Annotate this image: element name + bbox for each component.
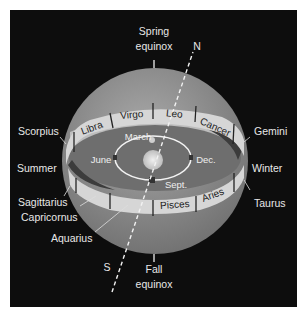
sun xyxy=(143,150,163,170)
earth-june xyxy=(113,155,117,160)
scorpius-label: Scorpius xyxy=(18,125,59,137)
zodiac-diagram: Spring equinox N S Fall equinox Summer W… xyxy=(0,0,308,317)
gemini-label: Gemini xyxy=(254,125,287,137)
fall-equinox-label-line1: Fall xyxy=(146,263,163,275)
south-label: S xyxy=(103,261,110,273)
sagittarius-label: Sagittarius xyxy=(18,196,68,208)
capricornus-label: Capricornus xyxy=(21,211,78,223)
winter-label: Winter xyxy=(252,162,283,174)
june-label: June xyxy=(91,154,112,165)
spring-equinox-label-line2: equinox xyxy=(136,40,174,52)
dec-label: Dec. xyxy=(196,154,216,165)
march-label: March xyxy=(125,131,151,142)
pisces-label: Pisces xyxy=(160,198,190,211)
sept-label: Sept. xyxy=(165,179,187,190)
taurus-label: Taurus xyxy=(254,197,286,209)
earth-dec xyxy=(189,155,193,160)
summer-label: Summer xyxy=(17,162,57,174)
aquarius-label: Aquarius xyxy=(51,232,92,244)
leo-label: Leo xyxy=(165,107,183,120)
fall-equinox-label-line2: equinox xyxy=(136,278,174,290)
north-label: N xyxy=(193,40,201,52)
virgo-label: Virgo xyxy=(120,108,144,121)
spring-equinox-label-line1: Spring xyxy=(139,25,170,37)
